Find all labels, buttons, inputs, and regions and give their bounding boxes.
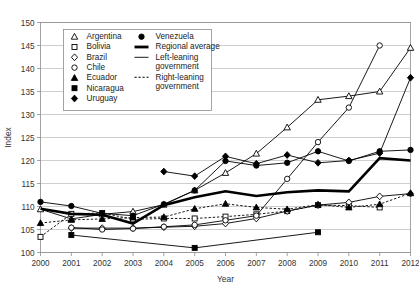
data-point-circle-solid [377,149,382,154]
data-point-diamond-solid [284,152,290,159]
x-tick-label: 2011 [371,259,389,268]
series-brazil [68,190,413,231]
circle-open-icon [72,65,77,70]
y-tick-label: 145 [21,42,35,51]
data-point-circle-open [69,225,74,230]
data-point-circle-solid [38,199,43,204]
x-tick-label: 2004 [155,259,174,268]
y-tick-label: 150 [21,19,35,28]
data-point-diamond-solid [192,173,198,180]
data-point-circle-open [315,139,320,144]
data-point-circle-open [284,176,289,181]
x-tick-label: 2012 [401,259,419,268]
x-tick-label: 2003 [124,259,143,268]
x-tick-label: 2010 [340,259,359,268]
circle-solid-icon [139,34,144,39]
data-point-square-solid [192,245,197,250]
data-point-triangle-solid [222,200,228,206]
data-point-square-solid [69,233,74,238]
y-tick-label: 100 [21,249,35,258]
legend-label: government [156,82,200,91]
x-tick-label: 2006 [216,259,235,268]
data-point-square-open [192,216,197,221]
data-point-circle-solid [130,213,135,218]
data-point-diamond-solid [161,168,167,175]
legend-label: Right-leaning [156,73,205,82]
chart-container: 100105110115120125130135140145150 200020… [0,0,419,292]
data-point-circle-solid [254,163,259,168]
series-bolivia [38,203,382,240]
data-point-square-solid [316,230,321,235]
data-point-triangle-solid [376,201,382,207]
data-point-circle-open [130,226,135,231]
data-point-circle-open [99,227,104,232]
data-point-circle-solid [346,158,351,163]
x-axis-ticks [41,253,411,257]
index-by-year-line-chart: 100105110115120125130135140145150 200020… [0,0,419,292]
x-tick-label: 2001 [62,259,81,268]
x-axis-tick-labels: 2000200120022003200420052006200720082009… [31,259,419,268]
legend-label: Regional average [156,42,221,51]
data-point-square-open [38,234,43,239]
y-tick-label: 140 [21,65,35,74]
series-nicaragua [69,230,321,251]
chart-legend: ArgentinaBoliviaBrazilChileEcuadorNicara… [64,30,221,111]
series-line [41,205,380,237]
x-tick-label: 2000 [31,259,50,268]
data-point-circle-open [223,218,228,223]
data-point-circle-open [254,213,259,218]
legend-label: Brazil [87,53,108,62]
legend-label: Nicaragua [87,84,125,93]
legend-label: Left-leaning [156,53,199,62]
x-tick-label: 2007 [247,259,266,268]
legend-label: government [156,62,200,71]
y-tick-label: 135 [21,88,35,97]
y-axis-tick-labels: 100105110115120125130135140145150 [21,19,35,258]
legend-label: Ecuador [87,73,118,82]
data-point-circle-solid [223,158,228,163]
legend-label: Chile [87,63,106,72]
data-point-circle-solid [284,160,289,165]
y-tick-label: 110 [21,203,34,212]
y-tick-label: 130 [21,111,35,120]
y-tick-label: 120 [21,157,35,166]
legend-label: Bolivia [87,42,112,51]
legend-label: Argentina [87,32,122,41]
series-line [71,194,410,229]
data-point-circle-solid [69,203,74,208]
data-point-triangle-open [222,170,228,176]
legend-label: Uruguay [87,94,119,103]
y-tick-label: 105 [21,226,35,235]
data-point-circle-solid [192,188,197,193]
x-tick-label: 2002 [93,259,112,268]
x-tick-label: 2009 [309,259,328,268]
x-tick-label: 2005 [186,259,205,268]
x-tick-label: 2008 [278,259,297,268]
x-axis-title: Year [217,274,234,284]
y-axis-title: Index [3,126,13,147]
square-open-icon [72,45,77,50]
data-point-circle-solid [315,149,320,154]
data-point-circle-open [192,222,197,227]
square-solid-icon [72,86,77,91]
legend-label: Venezuela [156,32,195,41]
y-tick-label: 115 [21,180,34,189]
data-point-circle-open [346,105,351,110]
y-axis-ticks [37,23,41,253]
data-point-diamond-open [377,193,383,200]
y-tick-label: 125 [21,134,35,143]
data-point-circle-open [161,224,166,229]
data-point-diamond-solid [407,74,413,81]
data-point-circle-solid [408,147,413,152]
data-point-circle-open [377,43,382,48]
